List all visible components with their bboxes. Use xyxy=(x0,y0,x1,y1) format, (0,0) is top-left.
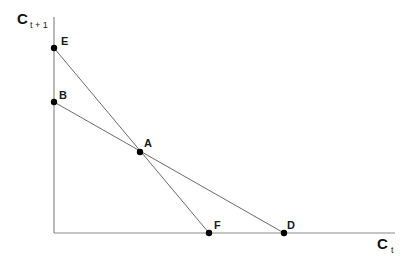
x-axis-label: C xyxy=(377,235,388,252)
y-axis-subscript: t + 1 xyxy=(30,20,48,30)
label-B: B xyxy=(59,89,67,101)
label-E: E xyxy=(61,35,68,47)
label-D: D xyxy=(287,219,295,231)
x-axis-subscript: t xyxy=(391,245,394,255)
point-E xyxy=(51,45,57,51)
point-B xyxy=(51,99,57,105)
budget-constraint-diagram: E B A F D C t + 1 C t xyxy=(0,0,413,262)
line-B-D xyxy=(54,102,284,233)
label-F: F xyxy=(214,219,221,231)
line-E-F xyxy=(54,48,209,233)
point-A xyxy=(137,149,143,155)
point-F xyxy=(206,230,212,236)
y-axis-label: C xyxy=(17,10,28,27)
label-A: A xyxy=(144,137,152,149)
